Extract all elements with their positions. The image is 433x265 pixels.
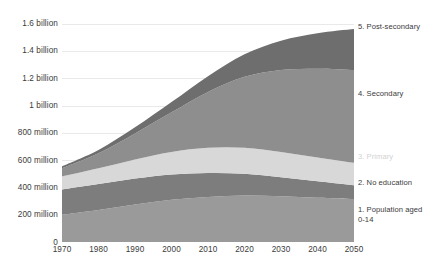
x-tick-label: 2000 (162, 245, 181, 254)
y-axis: 0200 million400 million600 million800 mi… (0, 0, 58, 265)
y-tick-label: 400 million (18, 183, 58, 192)
y-tick-label: 800 million (18, 128, 58, 137)
series-label: 2. No education (358, 178, 412, 188)
x-tick-label: 1990 (126, 245, 145, 254)
x-tick-label: 1970 (53, 245, 72, 254)
series-label: 1. Population aged 0-14 (358, 205, 422, 224)
y-tick-label: 1.4 billion (22, 46, 58, 55)
x-tick-label: 2010 (199, 245, 218, 254)
y-tick-label: 1.2 billion (22, 74, 58, 83)
plot-area (62, 10, 354, 242)
x-tick-label: 1980 (89, 245, 108, 254)
x-tick-label: 2030 (272, 245, 291, 254)
x-tick-label: 2020 (235, 245, 254, 254)
area-series-group (62, 10, 354, 242)
x-axis: 197019801990200020102020203020402050 (62, 245, 362, 261)
series-label: 5. Post-secondary (358, 22, 420, 32)
y-tick-label: 600 million (18, 156, 58, 165)
y-tick-label: 1 billion (29, 101, 58, 110)
series-label: 3. Primary (358, 152, 393, 162)
x-tick-label: 2040 (308, 245, 327, 254)
series-label: 4. Secondary (358, 89, 403, 99)
series-legend: 1. Population aged 0-142. No education3.… (358, 0, 433, 265)
y-tick-label: 1.6 billion (22, 19, 58, 28)
y-tick-label: 200 million (18, 210, 58, 219)
stacked-area-chart: 0200 million400 million600 million800 mi… (0, 0, 433, 265)
